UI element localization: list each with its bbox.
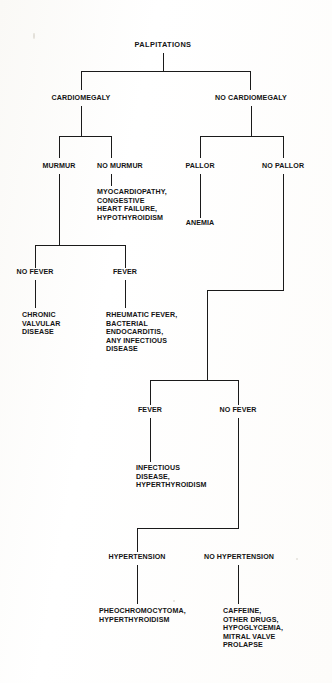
edge-murmur-stem [59,174,60,245]
node-infectious-outcomes: INFECTIOUS DISEASE, HYPERTHYROIDISM [136,464,206,490]
edge-no-hypertension-stem [238,565,239,604]
edge-no-pallor-elbow [207,290,284,291]
edge-fever-2-stem [150,418,151,462]
node-no-fever-2: NO FEVER [219,406,256,415]
edge-to-pallor [200,136,201,158]
edge-no-pallor-descend [207,290,208,380]
edge-no-pallor-stem [283,174,284,291]
edge-no-cardiomegaly-stem [251,106,252,136]
edge-fever2-bar [150,380,239,381]
node-no-murmur: NO MURMUR [97,162,143,171]
edge-no-murmur-stem [111,174,112,186]
edge-fever1-bar [35,245,126,246]
edge-hypertension-bar [137,528,239,529]
node-rheumatic-outcomes: RHEUMATIC FEVER, BACTERIAL ENDOCARDITIS,… [106,311,177,354]
node-no-hypertension: NO HYPERTENSION [204,553,274,562]
edge-no-fever-2-stem [238,418,239,529]
edge-cardiomegaly-stem [81,106,82,136]
node-fever-2: FEVER [138,406,162,415]
edge-to-no-cardiomegaly [250,71,251,90]
node-no-cardiomegaly: NO CARDIOMEGALY [215,94,287,103]
edge-to-no-murmur [111,136,112,158]
node-caffeine-outcomes: CAFFEINE, OTHER DRUGS, HYPOGLYCEMIA, MIT… [223,607,283,650]
edge-to-hypertension [137,528,138,552]
edge-no-fever-1-stem [35,280,36,308]
node-murmur: MURMUR [43,162,76,171]
node-no-pallor: NO PALLOR [262,162,304,171]
node-anemia: ANEMIA [186,219,215,228]
edge-level1-bar [81,71,251,72]
node-pheochromocytoma-outcomes: PHEOCHROMOCYTOMA, HYPERTHYROIDISM [99,607,186,624]
scan-speck [296,558,298,560]
node-cardiomegaly: CARDIOMEGALY [52,94,111,103]
edge-to-no-pallor [283,136,284,158]
node-pallor: PALLOR [185,162,214,171]
edge-pallor-stem [200,174,201,218]
edge-to-fever-1 [125,245,126,268]
node-palpitations: PALPITATIONS [135,41,192,50]
edge-to-fever-2 [150,380,151,405]
scan-speck [173,600,175,602]
edge-to-murmur [59,136,60,158]
node-myocardiopathy-outcomes: MYOCARDIOPATHY, CONGESTIVE HEART FAILURE… [97,188,167,222]
flowchart-canvas: PALPITATIONS CARDIOMEGALY NO CARDIOMEGAL… [0,0,332,683]
edge-pallor-bar [200,136,284,137]
node-chronic-valvular-disease: CHRONIC VALVULAR DISEASE [22,311,60,337]
scan-speck [33,33,35,39]
edge-fever-1-stem [125,280,126,308]
edge-to-cardiomegaly [81,71,82,90]
edge-murmur-bar [59,136,112,137]
edge-to-no-fever-2 [238,380,239,405]
edge-to-no-fever-1 [35,245,36,268]
edge-hypertension-stem [137,565,138,604]
node-hypertension: HYPERTENSION [108,553,165,562]
node-fever-1: FEVER [113,268,137,277]
node-no-fever-1: NO FEVER [16,268,53,277]
edge-root-stem [163,53,164,72]
